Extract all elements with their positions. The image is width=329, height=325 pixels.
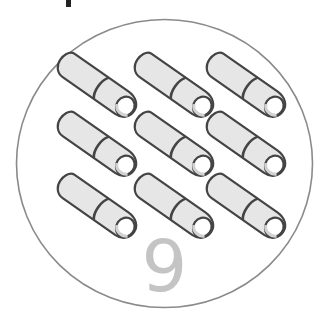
slipper-icon: [53, 108, 142, 181]
count-number: 9: [0, 226, 329, 306]
slipper-icon: [202, 49, 291, 122]
slipper-grid: [53, 49, 291, 243]
slipper-icon: [202, 108, 291, 181]
slipper-icon: [53, 49, 142, 122]
slipper-icon: [130, 108, 219, 181]
slipper-icon: [130, 49, 219, 122]
